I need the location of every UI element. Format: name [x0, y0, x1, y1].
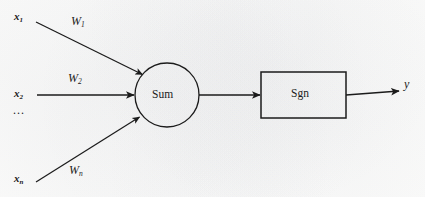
weight-label-w2: W2 — [68, 72, 82, 86]
weight-label-w2-base: W — [68, 71, 78, 85]
figure-canvas: Sum Sgn x1 x2 ... xn W1 W2 Wn y — [0, 0, 425, 197]
weight-label-w2-subscript: 2 — [78, 77, 82, 86]
input-label-x1: x1 — [14, 11, 23, 24]
activation-node-label: Sgn — [291, 88, 309, 100]
input-label-x2: x2 — [14, 88, 23, 101]
edge-x1-to-sum — [36, 22, 143, 75]
input-label-x2-subscript: 2 — [20, 93, 24, 101]
weight-label-wn-base: W — [69, 163, 79, 177]
summation-node-label: Sum — [152, 89, 173, 101]
weight-label-wn: Wn — [69, 164, 83, 178]
input-label-x1-subscript: 1 — [20, 16, 24, 24]
input-label-xn: xn — [14, 173, 23, 186]
input-ellipsis: ... — [13, 104, 25, 116]
perceptron-diagram — [0, 0, 425, 197]
input-label-xn-subscript: n — [20, 178, 24, 186]
weight-label-w1-base: W — [71, 14, 81, 28]
output-label-y: y — [404, 78, 409, 90]
weight-label-w1-subscript: 1 — [81, 20, 85, 29]
edge-xn-to-sum — [36, 117, 140, 182]
edge-sgn-to-output — [346, 91, 399, 95]
weight-label-wn-subscript: n — [79, 169, 83, 178]
weight-label-w1: W1 — [71, 15, 85, 29]
